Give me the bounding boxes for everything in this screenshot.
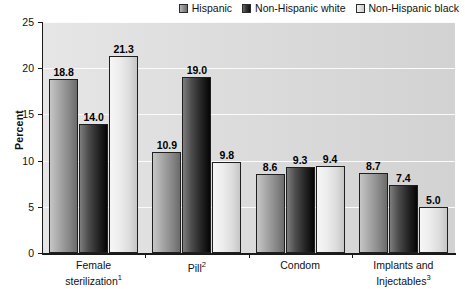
bar: 19.0 [182,77,211,253]
x-axis-category-label: Implants andInjectables3 [352,259,455,287]
category-label-line: Pill2 [145,259,248,274]
y-tick-label: 25 [4,16,34,28]
bar-group: 10.919.09.8 [145,22,248,253]
bar-value-label: 9.8 [220,149,235,161]
category-label-line: Implants and [352,259,455,272]
bar: 5.0 [419,207,448,253]
x-axis-category-label: Femalesterilization1 [42,259,145,287]
bar: 21.3 [109,56,138,253]
bar: 10.9 [152,152,181,253]
y-tick-label: 5 [4,201,34,213]
bar-chart: Hispanic Non-Hispanic white Non-Hispanic… [0,0,465,289]
bar-group: 18.814.021.3 [42,22,145,253]
x-axis-category-label: Condom [249,259,352,272]
bar: 9.8 [212,162,241,253]
bar-value-label: 5.0 [426,194,441,206]
footnote-marker: 1 [118,273,122,282]
x-tick-mark [249,253,250,258]
bar-value-label: 19.0 [187,64,207,76]
x-tick-mark [352,253,353,258]
bar-value-label: 21.3 [113,43,133,55]
category-label-line: Condom [249,259,352,272]
bar-group: 8.69.39.4 [249,22,352,253]
bar: 18.8 [49,79,78,253]
bar-value-label: 7.4 [396,172,411,184]
category-label-line: sterilization1 [42,272,145,287]
bar-value-label: 8.7 [366,160,381,172]
bar: 9.4 [316,166,345,253]
footnote-marker: 3 [426,273,430,282]
bar: 14.0 [79,124,108,253]
bar: 7.4 [389,185,418,253]
x-tick-mark [145,253,146,258]
bar-value-label: 8.6 [263,161,278,173]
category-label-line: Female [42,259,145,272]
y-tick-label: 0 [4,247,34,259]
bar-value-label: 18.8 [53,66,73,78]
bar-value-label: 9.4 [323,153,338,165]
y-tick-label: 20 [4,62,34,74]
x-axis-category-label: Pill2 [145,259,248,274]
y-tick-label: 10 [4,155,34,167]
bar: 9.3 [286,167,315,253]
x-axis-labels: Femalesterilization1Pill2CondomImplants … [42,259,455,289]
bar-groups: 18.814.021.310.919.09.88.69.39.48.77.45.… [42,22,455,253]
y-tick-label: 15 [4,108,34,120]
category-label-line: Injectables3 [352,272,455,287]
bar-value-label: 14.0 [83,111,103,123]
footnote-marker: 2 [202,260,206,269]
bar-group: 8.77.45.0 [352,22,455,253]
bar: 8.7 [359,173,388,253]
bar: 8.6 [256,174,285,253]
bar-value-label: 9.3 [293,154,308,166]
bar-value-label: 10.9 [157,139,177,151]
